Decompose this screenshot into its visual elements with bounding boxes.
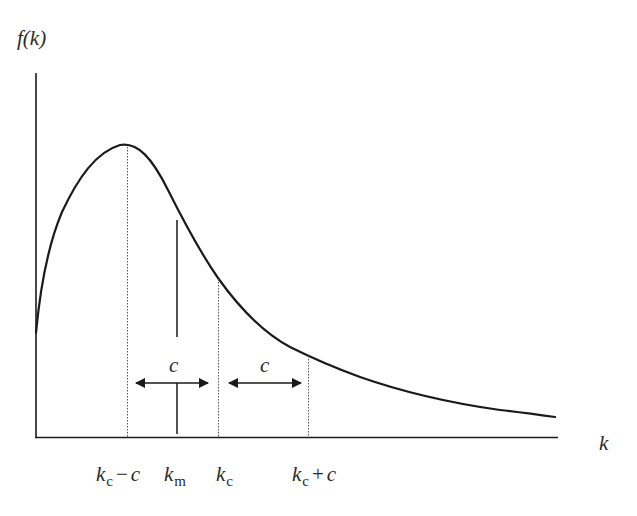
distribution-curve (36, 145, 555, 417)
tick-label-kc-minus-c: kc−c (96, 464, 140, 485)
tick-sub: m (174, 473, 186, 489)
tick-sub: c (226, 473, 233, 489)
x-axis-label: k (599, 433, 608, 454)
y-axis-label: f(k) (17, 28, 46, 49)
tick-op: + (312, 462, 324, 486)
diagram-canvas (0, 0, 637, 516)
tick-label-kc-plus-c: kc+c (292, 464, 336, 485)
tick-label-km: km (164, 464, 186, 485)
tick-base: k (164, 462, 173, 486)
arrow-right-c-label: c (260, 355, 269, 376)
tick-base: k (292, 462, 301, 486)
tick-sub: c (106, 473, 113, 489)
tick-base: k (216, 462, 225, 486)
tick-base: k (96, 462, 105, 486)
tick-sub: c (302, 473, 309, 489)
arrow-left-c-label: c (169, 355, 178, 376)
tick-rest: c (327, 462, 336, 486)
tick-op: − (116, 462, 128, 486)
tick-rest: c (131, 462, 140, 486)
tick-label-kc: kc (216, 464, 233, 485)
